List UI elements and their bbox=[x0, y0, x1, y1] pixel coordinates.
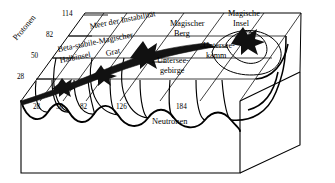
right-top-edge bbox=[240, 72, 300, 101]
neutron-tick-50: 50 bbox=[56, 104, 63, 111]
feature-label-berg-line2: Berg bbox=[174, 30, 190, 38]
feature-label-berg-line1: Magischer bbox=[170, 20, 205, 28]
figure-canvas: Protonen 114 82 50 28 28 50 82 126 184 N… bbox=[0, 0, 335, 183]
proton-tick-50: 50 bbox=[31, 53, 38, 60]
feature-label-gebirge-line2: gebirge bbox=[160, 67, 184, 75]
feature-label-gebirge-line1: Untersee- bbox=[157, 57, 189, 65]
proton-tick-82: 82 bbox=[46, 32, 53, 39]
front-face bbox=[21, 101, 240, 173]
landscape-diagram bbox=[0, 0, 335, 183]
right-face bbox=[240, 72, 300, 173]
axis-label-neutronen: Neutronen bbox=[152, 118, 187, 127]
feature-label-insel-line1: Magische bbox=[228, 10, 260, 18]
feature-label-kamm-line1: Untersee- bbox=[203, 42, 235, 50]
feature-label-insel-line2: Insel bbox=[233, 20, 249, 28]
coastline-front bbox=[21, 101, 240, 131]
neutron-tick-82: 82 bbox=[80, 104, 87, 111]
neutron-tick-126: 126 bbox=[116, 104, 127, 111]
feature-label-kamm-line2: kamm bbox=[206, 52, 226, 60]
proton-tick-114: 114 bbox=[62, 11, 73, 18]
neutron-tick-184: 184 bbox=[176, 104, 187, 111]
proton-tick-28: 28 bbox=[17, 74, 24, 81]
neutron-tick-28: 28 bbox=[33, 104, 40, 111]
